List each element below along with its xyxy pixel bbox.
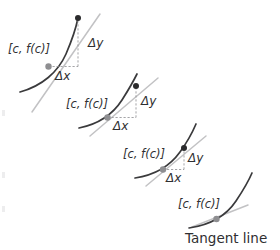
- panel-2: [c, f(c)] Δy Δx: [66, 74, 158, 136]
- tangent-point-1: [45, 63, 51, 69]
- secant-point-1: [75, 15, 81, 21]
- diagram-canvas: [c, f(c)] Δy Δx [c, f(c)] Δy Δx [c, f(c)…: [0, 0, 280, 250]
- tangent-point-2: [104, 114, 110, 120]
- point-label-2: [c, f(c)]: [66, 97, 108, 111]
- scan-artifact-top: [2, 110, 5, 116]
- delta-y-label-3: Δy: [187, 151, 204, 165]
- tangent-point-4: [213, 216, 219, 222]
- scan-artifact-bottom: [2, 206, 5, 212]
- delta-y-label-1: Δy: [87, 36, 104, 50]
- delta-x-label-1: Δx: [54, 69, 71, 83]
- delta-x-label-2: Δx: [112, 119, 129, 133]
- secant-point-2: [133, 83, 139, 89]
- tangent-line-label: Tangent line: [184, 230, 267, 246]
- delta-x-label-3: Δx: [165, 171, 182, 185]
- scan-artifact-mid: [2, 172, 5, 178]
- point-label-3: [c, f(c)]: [123, 147, 165, 161]
- point-label-1: [c, f(c)]: [8, 42, 50, 56]
- delta-y-label-2: Δy: [140, 94, 157, 108]
- panel-4: [c, f(c)] Tangent line: [178, 173, 267, 246]
- panel-3: [c, f(c)] Δy Δx: [123, 124, 206, 186]
- tangent-line-figure: [c, f(c)] Δy Δx [c, f(c)] Δy Δx [c, f(c)…: [0, 0, 280, 250]
- secant-point-3: [181, 145, 187, 151]
- point-label-4: [c, f(c)]: [178, 197, 220, 211]
